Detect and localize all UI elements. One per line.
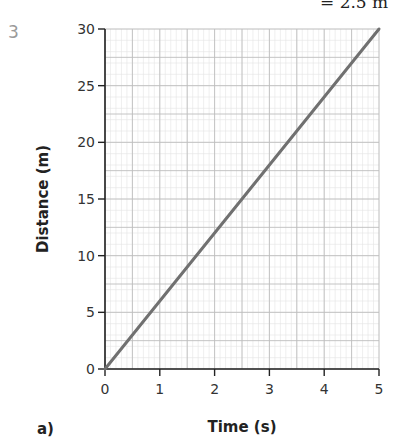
x-tick-label: 2 (210, 381, 219, 397)
distance-time-chart: 051015202530012345 Time (s) Distance (m) (0, 0, 396, 445)
x-axis-title: Time (s) (207, 418, 276, 436)
y-tick-label: 30 (77, 21, 95, 37)
y-tick-label: 15 (77, 191, 95, 207)
y-axis-title: Distance (m) (34, 145, 52, 253)
y-tick-label: 0 (86, 361, 95, 377)
x-tick-label: 0 (101, 381, 110, 397)
x-tick-label: 5 (375, 381, 384, 397)
y-tick-label: 10 (77, 248, 95, 264)
y-tick-label: 20 (77, 134, 95, 150)
x-tick-label: 3 (265, 381, 274, 397)
x-tick-label: 4 (320, 381, 329, 397)
x-tick-label: 1 (155, 381, 164, 397)
y-tick-label: 25 (77, 78, 95, 94)
y-tick-label: 5 (86, 304, 95, 320)
